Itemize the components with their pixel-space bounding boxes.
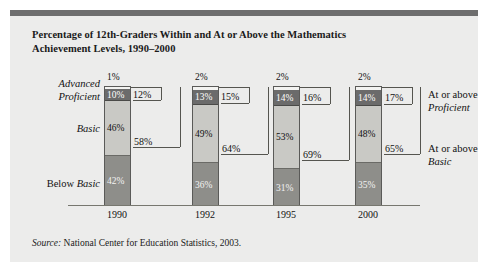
bracket-proficient-bottom-1990 (133, 100, 161, 101)
legend-basic-line-1: At or above (428, 143, 478, 154)
source-note: Source: National Center for Education St… (32, 238, 241, 248)
row-label-below-basic: Below Basic (10, 178, 100, 190)
at-or-above-proficient-value-1990: 12% (133, 89, 151, 100)
bracket-basic-bottom-2000 (384, 154, 420, 155)
segment-proficient-2000: 14% (356, 90, 381, 106)
segment-proficient-1990: 10% (105, 89, 130, 101)
bracket-proficient-bottom-1992 (221, 103, 249, 104)
row-label-basic: Basic (10, 123, 100, 135)
segment-proficient-value-1992: 13% (193, 92, 212, 102)
segment-basic-2000: 48% (356, 106, 381, 163)
segment-below-basic-1992: 36% (193, 163, 218, 206)
segment-basic-value-1990: 46% (105, 123, 124, 133)
row-label-advanced: Advanced (10, 78, 100, 90)
bracket-basic-vert-1990 (180, 87, 181, 147)
bracket-proficient-top-2000 (382, 87, 412, 88)
bracket-proficient-top-1990 (131, 87, 161, 88)
x-axis-tick-1992: 1992 (175, 209, 235, 220)
bracket-basic-bottom-1995 (302, 160, 349, 161)
segment-proficient-value-1990: 10% (105, 90, 124, 100)
bracket-basic-vert-1992 (268, 87, 269, 154)
at-or-above-basic-value-1990: 58% (134, 136, 152, 147)
legend-basic-line-2: Basic (428, 156, 451, 167)
segment-below-basic-value-2000: 35% (356, 180, 375, 190)
source-label: Source: (32, 238, 61, 248)
chart-plot-area: Advanced Proficient Basic Below Basic 1%… (10, 10, 478, 262)
x-axis-line (68, 205, 420, 206)
legend-proficient-line-2: Proficient (428, 102, 470, 113)
legend-at-or-above-basic: At or above Basic (428, 142, 478, 168)
advanced-value-1990: 1% (107, 72, 120, 82)
advanced-value-2000: 2% (358, 72, 371, 82)
row-label-below-basic-prefix: Below (47, 178, 77, 189)
bracket-proficient-vert-1992 (249, 87, 250, 103)
segment-basic-value-1995: 53% (274, 132, 293, 142)
stacked-bar-1995[interactable]: 14% 53% 31% (273, 86, 300, 205)
at-or-above-proficient-value-2000: 17% (385, 92, 403, 103)
bracket-proficient-bottom-2000 (384, 104, 412, 105)
row-label-below-basic-word: Basic (77, 178, 100, 189)
x-axis-tick-2000: 2000 (338, 209, 398, 220)
segment-basic-value-1992: 49% (193, 129, 212, 139)
bracket-proficient-vert-2000 (412, 87, 413, 104)
x-axis-tick-1990: 1990 (87, 209, 147, 220)
stacked-bar-1992[interactable]: 13% 49% 36% (192, 86, 219, 205)
at-or-above-basic-value-1992: 64% (222, 143, 240, 154)
stacked-bar-2000[interactable]: 14% 48% 35% (355, 86, 382, 205)
bracket-basic-bottom-1990 (133, 147, 180, 148)
at-or-above-basic-value-2000: 65% (385, 143, 403, 154)
stacked-bar-1990[interactable]: 10% 46% 42% (104, 86, 131, 205)
bracket-proficient-top-1992 (219, 87, 249, 88)
legend-proficient-line-1: At or above (428, 89, 478, 100)
at-or-above-proficient-value-1995: 16% (303, 92, 321, 103)
segment-proficient-1995: 14% (274, 90, 299, 106)
advanced-value-1995: 2% (276, 72, 289, 82)
advanced-value-1992: 2% (195, 72, 208, 82)
segment-proficient-1992: 13% (193, 90, 218, 105)
bracket-proficient-vert-1990 (161, 87, 162, 100)
figure-panel: Percentage of 12th-Graders Within and At… (10, 10, 478, 262)
bracket-basic-bottom-1992 (221, 154, 268, 155)
legend-at-or-above-proficient: At or above Proficient (428, 88, 478, 114)
segment-basic-1992: 49% (193, 105, 218, 163)
bracket-basic-vert-1995 (349, 87, 350, 160)
segment-proficient-value-2000: 14% (356, 93, 375, 103)
bracket-basic-vert-2000 (420, 87, 421, 154)
segment-below-basic-value-1992: 36% (193, 180, 212, 190)
segment-below-basic-2000: 35% (356, 163, 381, 206)
bracket-proficient-vert-1995 (330, 87, 331, 104)
row-label-proficient: Proficient (10, 91, 100, 103)
segment-below-basic-value-1995: 31% (274, 183, 293, 193)
segment-basic-value-2000: 48% (356, 129, 375, 139)
at-or-above-proficient-value-1992: 15% (221, 91, 239, 102)
segment-below-basic-1995: 31% (274, 169, 299, 206)
segment-basic-1995: 53% (274, 106, 299, 169)
bracket-proficient-top-1995 (300, 87, 330, 88)
at-or-above-basic-value-1995: 69% (303, 149, 321, 160)
source-text: National Center for Education Statistics… (61, 238, 241, 248)
segment-basic-1990: 46% (105, 101, 130, 156)
segment-below-basic-1990: 42% (105, 156, 130, 206)
x-axis-tick-1995: 1995 (256, 209, 316, 220)
bracket-proficient-bottom-1995 (302, 104, 330, 105)
segment-proficient-value-1995: 14% (274, 93, 293, 103)
segment-below-basic-value-1990: 42% (105, 176, 124, 186)
